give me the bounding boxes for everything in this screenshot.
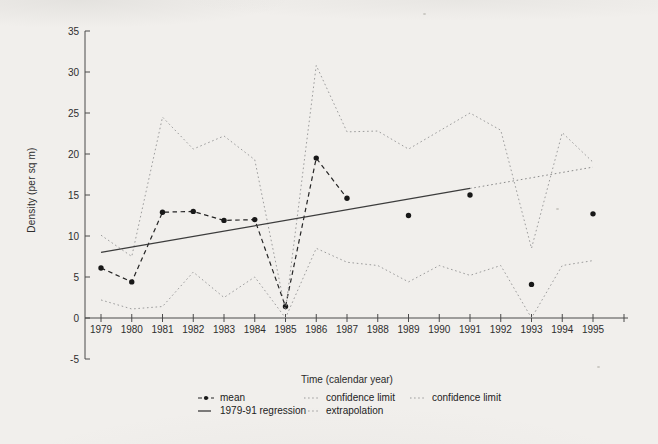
x-tick-label: 1990 bbox=[428, 324, 451, 335]
legend-item-mean: mean bbox=[197, 392, 306, 404]
y-tick-label: -5 bbox=[70, 354, 79, 365]
mean-point bbox=[252, 217, 257, 222]
legend-item-confidence-limit-upper: confidence limit bbox=[303, 392, 395, 404]
scan-speck bbox=[597, 366, 600, 368]
solid-line-marker-icon bbox=[197, 406, 215, 416]
series-mean bbox=[98, 155, 595, 309]
x-tick-label: 1986 bbox=[305, 324, 328, 335]
series-regression-line bbox=[101, 188, 470, 252]
y-tick-label: 35 bbox=[68, 26, 80, 37]
x-tick-label: 1988 bbox=[367, 324, 390, 335]
y-tick-label: 25 bbox=[68, 108, 80, 119]
x-tick-label: 1987 bbox=[336, 324, 359, 335]
mean-point bbox=[314, 155, 319, 160]
legend-label-confidence-upper: confidence limit bbox=[326, 392, 395, 404]
x-tick-label: 1979 bbox=[90, 324, 113, 335]
mean-point bbox=[529, 282, 534, 287]
mean-point bbox=[590, 211, 595, 216]
legend-column-2: confidence limit extrapolation bbox=[303, 392, 395, 418]
legend-label-mean: mean bbox=[220, 392, 245, 404]
scan-speck bbox=[556, 208, 559, 210]
y-tick-label: 15 bbox=[68, 190, 80, 201]
legend-label-extrapolation: extrapolation bbox=[326, 405, 383, 417]
scanned-chart-page: -505101520253035197919801981198219831984… bbox=[0, 0, 658, 444]
legend-label-regression: 1979-91 regression bbox=[220, 405, 306, 417]
mean-point bbox=[406, 213, 411, 218]
scan-speck bbox=[423, 13, 426, 15]
dotted-line-marker-icon bbox=[409, 393, 427, 403]
x-tick-label: 1985 bbox=[274, 324, 297, 335]
x-axis-label: Time (calendar year) bbox=[301, 374, 393, 385]
x-tick-label: 1995 bbox=[582, 324, 605, 335]
series-upper-confidence-limit bbox=[101, 65, 593, 310]
x-tick-label: 1981 bbox=[151, 324, 174, 335]
dotted-line-marker-icon bbox=[303, 393, 321, 403]
x-axis: 1979198019811982198319841985198619871988… bbox=[85, 314, 628, 335]
mean-point bbox=[221, 218, 226, 223]
x-tick-label: 1984 bbox=[244, 324, 267, 335]
y-tick-label: 5 bbox=[73, 272, 79, 283]
legend-item-regression: 1979-91 regression bbox=[197, 405, 306, 417]
y-axis: -505101520253035 bbox=[68, 26, 90, 365]
legend-column-3: confidence limit bbox=[409, 392, 501, 405]
y-axis-label: Density (per sq m) bbox=[26, 147, 37, 232]
x-tick-label: 1992 bbox=[490, 324, 513, 335]
y-tick-label: 0 bbox=[73, 313, 79, 324]
x-tick-label: 1982 bbox=[182, 324, 205, 335]
mean-point bbox=[160, 210, 165, 215]
series-lower-confidence-limit bbox=[101, 248, 593, 318]
x-tick-label: 1980 bbox=[121, 324, 144, 335]
mean-point bbox=[344, 196, 349, 201]
series-extrapolation-line bbox=[470, 167, 593, 188]
x-tick-label: 1991 bbox=[459, 324, 482, 335]
legend-column-1: mean 1979-91 regression bbox=[197, 392, 306, 418]
mean-point bbox=[191, 209, 196, 214]
mean-point bbox=[129, 279, 134, 284]
mean-line-marker-icon bbox=[197, 393, 215, 403]
y-tick-label: 10 bbox=[68, 231, 80, 242]
legend-item-confidence-limit-lower: confidence limit bbox=[409, 392, 501, 404]
mean-point bbox=[98, 265, 103, 270]
x-tick-label: 1994 bbox=[551, 324, 574, 335]
y-tick-label: 20 bbox=[68, 149, 80, 160]
legend-item-extrapolation: extrapolation bbox=[303, 405, 395, 417]
mean-point bbox=[467, 192, 472, 197]
x-tick-label: 1989 bbox=[397, 324, 420, 335]
legend: mean 1979-91 regression confidence limit bbox=[0, 392, 658, 422]
dotted-line-marker-icon bbox=[303, 406, 321, 416]
x-tick-label: 1993 bbox=[520, 324, 543, 335]
x-tick-label: 1983 bbox=[213, 324, 236, 335]
legend-label-confidence-lower: confidence limit bbox=[432, 392, 501, 404]
y-tick-label: 30 bbox=[68, 67, 80, 78]
